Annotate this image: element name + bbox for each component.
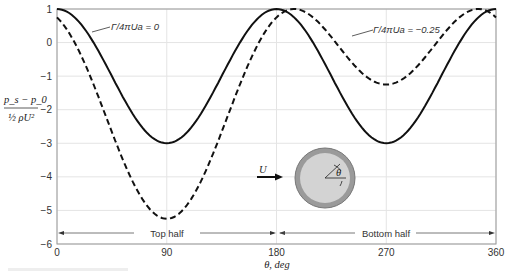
- y-tick-label: −1: [41, 71, 53, 82]
- series-annotations: Γ/4πUa = 0 Γ/4πUa = −0.25: [92, 21, 440, 36]
- y-tick-label: −5: [41, 205, 53, 216]
- x-tick-label: 270: [378, 247, 395, 258]
- y-tick-label: 0: [46, 37, 52, 48]
- series0-label: Γ/4πUa = 0: [111, 21, 160, 32]
- y-label-numerator: p_s − p_0: [3, 94, 47, 105]
- cylinder-inset: U θ: [257, 148, 355, 208]
- y-axis-ticks: 10−1−2−3−4−5−6: [41, 4, 53, 250]
- series1-label: Γ/4πUa = −0.25: [373, 24, 440, 35]
- caption-fragment: [8, 268, 128, 271]
- pressure-distribution-chart: 10−1−2−3−4−5−6 090180270360 p_s − p_0 ½ …: [0, 0, 510, 277]
- y-tick-label: −2: [41, 104, 53, 115]
- y-tick-label: −4: [41, 171, 53, 182]
- x-tick-label: 90: [161, 247, 173, 258]
- y-label-denominator: ½ ρU²: [8, 112, 35, 123]
- freestream-u-label: U: [259, 164, 268, 175]
- y-tick-label: −6: [41, 239, 53, 250]
- y-tick-label: −3: [41, 138, 53, 149]
- x-tick-label: 0: [54, 247, 60, 258]
- bottom-half-label: Bottom half: [362, 228, 410, 239]
- y-tick-label: 1: [46, 4, 52, 15]
- x-tick-label: 360: [488, 247, 505, 258]
- grid: [57, 9, 496, 244]
- arrowhead-left-icon: [58, 231, 64, 235]
- top-half-label: Top half: [150, 228, 184, 239]
- x-tick-label: 180: [268, 247, 285, 258]
- x-axis-ticks: 090180270360: [54, 247, 505, 258]
- arrowhead-right-icon: [489, 231, 495, 235]
- flow-arrow-icon: [275, 174, 283, 181]
- theta-label: θ: [336, 167, 341, 178]
- arrowhead-right-icon: [270, 231, 276, 235]
- x-axis-label: θ, deg: [264, 259, 290, 270]
